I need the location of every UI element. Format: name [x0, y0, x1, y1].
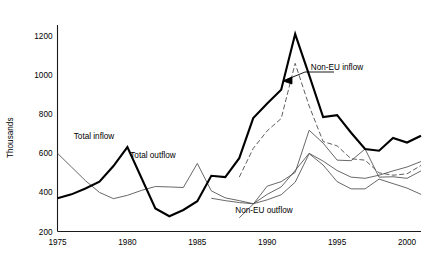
- y-tick-label: 800: [39, 110, 53, 119]
- y-axis-title: Thousands: [6, 117, 15, 158]
- series-annotation-total-outflow: Total outflow: [130, 151, 176, 160]
- series-annotation-non-eu-outflow: Non-EU outflow: [235, 206, 292, 215]
- y-tick-label: 600: [39, 149, 53, 158]
- x-tick-label: 1975: [48, 238, 67, 247]
- x-tick-label: 2000: [398, 238, 417, 247]
- series-annotation-total-inflow: Total inflow: [74, 132, 115, 141]
- y-tick-label: 200: [39, 228, 53, 237]
- y-tick-label: 1000: [34, 71, 53, 80]
- x-tick-label: 1980: [118, 238, 137, 247]
- chart-figure: Thousands 20040060080010001200 197519801…: [0, 0, 431, 273]
- series-annotation-non-eu-inflow: Non-EU inflow: [311, 63, 363, 72]
- x-tick-label: 1995: [328, 238, 347, 247]
- line-chart-svg: Thousands 20040060080010001200 197519801…: [0, 0, 431, 273]
- x-tick-label: 1990: [258, 238, 277, 247]
- x-tick-label: 1985: [188, 238, 207, 247]
- y-tick-label: 1200: [34, 32, 53, 41]
- y-tick-label: 400: [39, 188, 53, 197]
